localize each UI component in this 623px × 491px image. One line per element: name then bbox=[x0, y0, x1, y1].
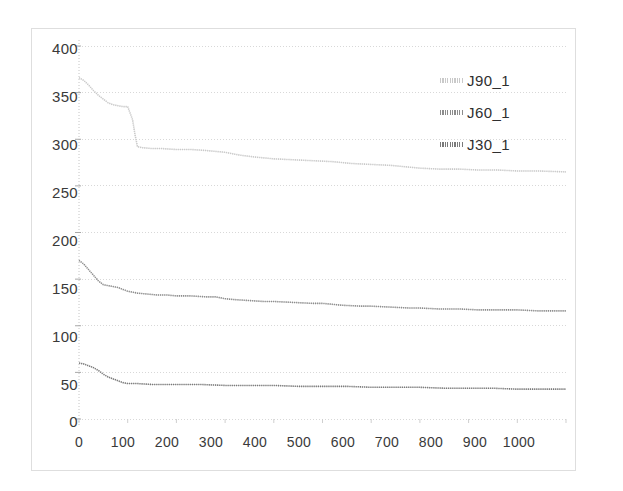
y-tick-label-0: 0 bbox=[32, 413, 78, 430]
y-tick-label-50: 50 bbox=[32, 376, 78, 393]
legend-item-j30[interactable]: J30_1 bbox=[440, 133, 560, 156]
legend-label-j60: J60_1 bbox=[467, 104, 510, 121]
legend-swatch-j30 bbox=[440, 142, 463, 147]
x-tick-label-400: 400 bbox=[232, 434, 278, 450]
y-tick-label-350: 350 bbox=[32, 88, 78, 105]
x-tick-label-500: 500 bbox=[276, 434, 322, 450]
x-tick-label-200: 200 bbox=[144, 434, 190, 450]
x-tick-label-900: 900 bbox=[452, 434, 498, 450]
chart-legend: J90_1 J60_1 J30_1 bbox=[440, 69, 560, 165]
y-tick-label-300: 300 bbox=[32, 136, 78, 153]
x-tick-label-700: 700 bbox=[364, 434, 410, 450]
legend-swatch-j90 bbox=[440, 78, 463, 83]
x-tick-label-800: 800 bbox=[408, 434, 454, 450]
legend-swatch-j60 bbox=[440, 110, 463, 115]
y-tick-label-150: 150 bbox=[32, 280, 78, 297]
x-tick-label-300: 300 bbox=[188, 434, 234, 450]
x-tick-label-600: 600 bbox=[320, 434, 366, 450]
plot-area: 400 350 300 250 200 150 100 50 0 0 100 2… bbox=[32, 29, 575, 470]
x-tick-label-1000: 1000 bbox=[496, 434, 542, 450]
legend-item-j90[interactable]: J90_1 bbox=[440, 69, 560, 92]
y-tick-label-200: 200 bbox=[32, 232, 78, 249]
y-tick-label-400: 400 bbox=[32, 40, 78, 57]
x-tick-label-100: 100 bbox=[100, 434, 146, 450]
legend-label-j30: J30_1 bbox=[467, 136, 510, 153]
x-tick-label-0: 0 bbox=[56, 434, 102, 450]
y-tick-label-100: 100 bbox=[32, 328, 78, 345]
y-tick-label-250: 250 bbox=[32, 184, 78, 201]
chart-frame: 400 350 300 250 200 150 100 50 0 0 100 2… bbox=[31, 28, 576, 471]
legend-label-j90: J90_1 bbox=[467, 72, 510, 89]
legend-item-j60[interactable]: J60_1 bbox=[440, 101, 560, 124]
